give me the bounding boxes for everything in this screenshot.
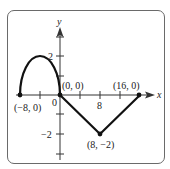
point-label-neg8-0: (−8, 0): [14, 102, 41, 114]
point-label-16-0: (16, 0): [113, 80, 140, 92]
origin-label: 0: [52, 97, 57, 108]
point-neg8-0: [18, 93, 23, 98]
point-8-neg2: [98, 132, 103, 137]
point-16-0: [137, 93, 142, 98]
x-axis: [16, 91, 155, 99]
y-axis-label: y: [56, 16, 62, 27]
chart-plot: y x 0 8 2 −2 (−8, 0) (0, 0) (16, 0) (8, …: [0, 0, 170, 169]
point-label-8-neg2: (8, −2): [87, 139, 114, 151]
y-tick-label-neg2: −2: [41, 129, 52, 140]
x-axis-label: x: [156, 89, 162, 100]
semi-ellipse-curve: [20, 56, 60, 95]
point-0-0: [58, 93, 63, 98]
point-label-0-0: (0, 0): [62, 80, 84, 92]
x-tick-label-8: 8: [97, 100, 102, 111]
y-tick-label-2: 2: [48, 51, 53, 62]
